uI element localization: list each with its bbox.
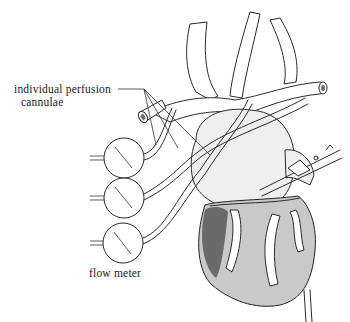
flow-meter-label: flow meter: [89, 267, 141, 279]
heart-ventricles: [199, 196, 316, 306]
drain-tubes: [304, 290, 312, 322]
flow-meter-1: [90, 138, 144, 178]
great-vessels: [150, 12, 327, 122]
cannulae-label-line2: cannulae: [21, 96, 63, 108]
flow-meter-2: [90, 178, 144, 218]
aortic-root: [191, 109, 314, 210]
cannulae-label-line1: individual perfusion: [14, 83, 111, 95]
perfusion-diagram: [0, 0, 350, 322]
flow-meters: [90, 138, 144, 263]
flow-meter-3: [90, 223, 143, 263]
